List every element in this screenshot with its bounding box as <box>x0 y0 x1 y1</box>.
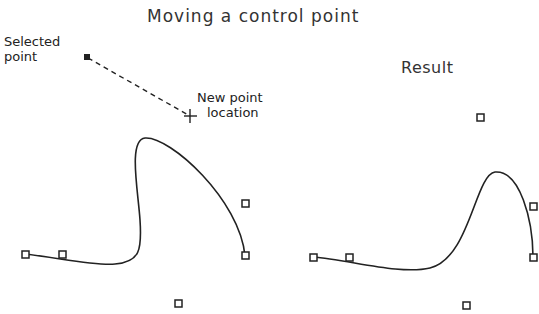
diagram-canvas <box>0 0 539 314</box>
control-point[interactable] <box>530 254 537 261</box>
control-point[interactable] <box>530 203 537 210</box>
control-point[interactable] <box>22 251 29 258</box>
new-point-cross-icon <box>184 109 197 123</box>
selected-point-marker[interactable] <box>84 54 90 60</box>
control-point[interactable] <box>463 302 470 309</box>
move-dashed-line <box>88 58 190 116</box>
control-point[interactable] <box>242 252 249 259</box>
control-point[interactable] <box>477 114 484 121</box>
control-point[interactable] <box>310 254 317 261</box>
control-point[interactable] <box>346 254 353 261</box>
control-point[interactable] <box>175 300 182 307</box>
control-point[interactable] <box>242 200 249 207</box>
left-curve <box>25 138 245 264</box>
control-point[interactable] <box>59 251 66 258</box>
